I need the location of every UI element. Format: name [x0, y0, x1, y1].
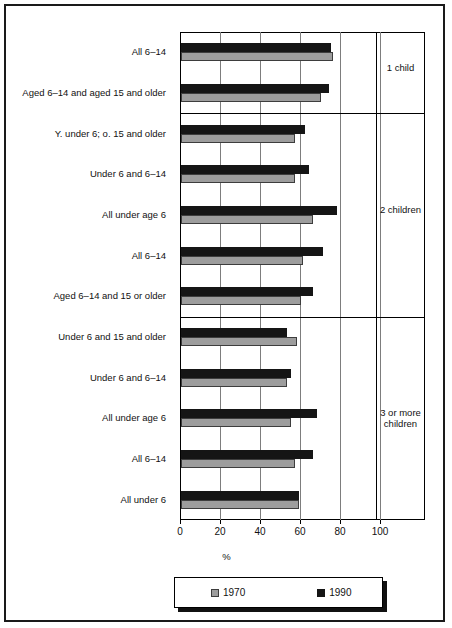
bar-1970	[181, 134, 295, 143]
bar-1990	[181, 450, 313, 459]
bar-1990	[181, 84, 329, 93]
legend-label-1990: 1990	[329, 587, 351, 598]
x-tick-label: 80	[334, 526, 345, 537]
legend-item-1990: 1990	[317, 587, 351, 598]
black-swatch-icon	[317, 589, 325, 597]
bar-1990	[181, 43, 331, 52]
x-tick	[180, 520, 181, 524]
category-label: Under 6 and 15 and older	[58, 331, 166, 342]
chart-frame: All 6–14Aged 6–14 and aged 15 and olderY…	[4, 4, 445, 622]
panel-group-label: 1 child	[376, 62, 425, 73]
x-tick-label: 20	[214, 526, 225, 537]
category-label: Y. under 6; o. 15 and older	[55, 128, 166, 139]
category-label: Under 6 and 6–14	[90, 168, 166, 179]
legend-box: 1970 1990	[174, 577, 383, 608]
bar-1990	[181, 125, 305, 134]
x-tick	[340, 520, 341, 524]
category-label: Aged 6–14 and aged 15 and older	[22, 87, 166, 98]
category-label: All 6–14	[132, 453, 166, 464]
bar-1990	[181, 287, 313, 296]
category-label: All under age 6	[102, 209, 166, 220]
x-tick	[380, 520, 381, 524]
plot-area: 1 child2 children3 or more children	[176, 32, 425, 520]
x-tick-label: 0	[177, 526, 183, 537]
x-tick-label: 60	[294, 526, 305, 537]
x-tick	[220, 520, 221, 524]
bar-1990	[181, 206, 337, 215]
legend: 1970 1990	[174, 577, 387, 612]
category-label: All under age 6	[102, 412, 166, 423]
bar-1970	[181, 93, 321, 102]
bar-1990	[181, 165, 309, 174]
category-label: All 6–14	[132, 46, 166, 57]
bar-1970	[181, 296, 301, 305]
x-tick	[300, 520, 301, 524]
bar-1990	[181, 491, 299, 500]
bar-1990	[181, 328, 287, 337]
x-tick-label: 100	[372, 526, 389, 537]
bar-1990	[181, 409, 317, 418]
bar-1990	[181, 247, 323, 256]
panel-group-label: 3 or more children	[376, 407, 425, 429]
x-tick-label: 40	[254, 526, 265, 537]
bar-1970	[181, 459, 295, 468]
bar-rows	[181, 33, 424, 519]
bar-1970	[181, 256, 303, 265]
bar-1970	[181, 378, 287, 387]
category-label: Under 6 and 6–14	[90, 372, 166, 383]
bar-1970	[181, 215, 313, 224]
bar-1970	[181, 174, 295, 183]
category-label: All under 6	[121, 494, 166, 505]
category-label-column: All 6–14Aged 6–14 and aged 15 and olderY…	[14, 32, 172, 520]
bar-1990	[181, 369, 291, 378]
bar-1970	[181, 500, 299, 509]
bar-1970	[181, 52, 333, 61]
legend-label-1970: 1970	[223, 587, 245, 598]
gray-swatch-icon	[211, 589, 219, 597]
legend-item-1970: 1970	[211, 587, 245, 598]
x-axis: 020406080100	[176, 520, 425, 542]
panel-group-label: 2 children	[376, 204, 425, 215]
x-axis-title: %	[6, 551, 447, 562]
bar-1970	[181, 337, 297, 346]
bar-1970	[181, 418, 291, 427]
category-label: All 6–14	[132, 250, 166, 261]
category-label: Aged 6–14 and 15 or older	[53, 290, 166, 301]
x-tick	[260, 520, 261, 524]
